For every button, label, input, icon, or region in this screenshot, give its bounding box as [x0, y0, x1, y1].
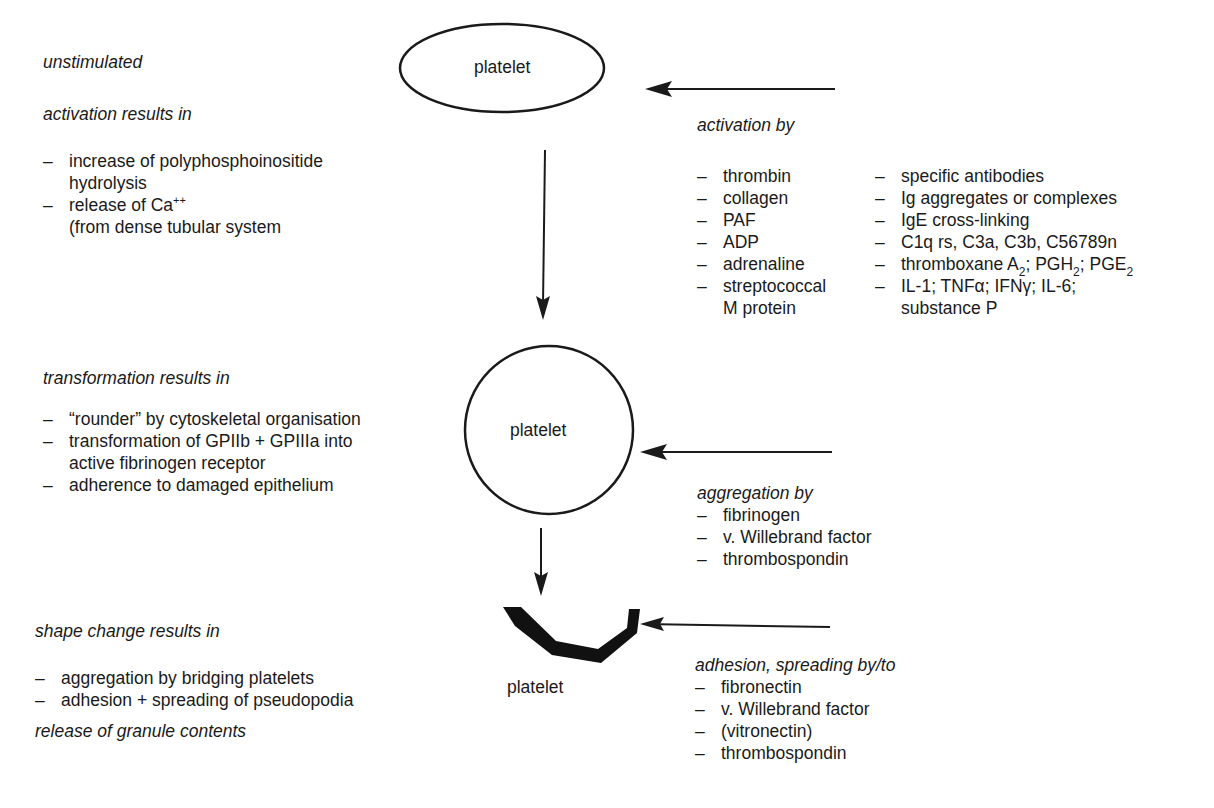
item-text: (vitronectin) [721, 720, 812, 742]
shape-change-results-list: –aggregation by bridging platelets –adhe… [35, 667, 353, 711]
dash: – [697, 231, 723, 253]
list-item: –PAF [697, 209, 826, 231]
list-item: –adhesion + spreading of pseudopodia [35, 689, 353, 711]
item-text: release of Ca++ [69, 194, 186, 216]
activation-by-list-col2: –specific antibodies –Ig aggregates or c… [875, 165, 1133, 319]
adhesion-arrow [644, 624, 830, 627]
list-item: –C1q rs, C3a, C3b, C56789n [875, 231, 1133, 253]
list-item: –increase of polyphosphoinositide hydrol… [43, 150, 323, 194]
list-item: –Ig aggregates or complexes [875, 187, 1133, 209]
dash: – [875, 165, 901, 187]
list-item: –IgE cross-linking [875, 209, 1133, 231]
list-item: –release of Ca++ (from dense tubular sys… [43, 194, 323, 238]
item-text: aggregation by bridging platelets [61, 667, 314, 689]
list-item: –adrenaline [697, 253, 826, 275]
item-text: streptococcal [723, 275, 826, 297]
item-text-continued: hydrolysis [43, 172, 323, 194]
dash: – [875, 209, 901, 231]
item-text-continued: (from dense tubular system [43, 216, 323, 238]
shape-change-results-heading: shape change results in [35, 620, 220, 642]
list-item: –IL-1; TNFα; IFNγ; IL-6; substance P [875, 275, 1133, 319]
item-text: v. Willebrand factor [723, 526, 871, 548]
item-text: Ig aggregates or complexes [901, 187, 1117, 209]
unstimulated-heading: unstimulated [43, 51, 142, 73]
item-text-continued: active fibrinogen receptor [43, 452, 361, 474]
list-item: –transformation of GPIIb + GPIIIa into a… [43, 430, 361, 474]
item-text-part: thromboxane A [901, 254, 1019, 274]
item-text: thromboxane A2; PGH2; PGE2 [901, 253, 1133, 275]
transformation-results-heading: transformation results in [43, 367, 230, 389]
dash: – [697, 504, 723, 526]
platelet-shape-changed-label: platelet [507, 677, 563, 698]
dash: – [43, 474, 69, 496]
dash: – [35, 689, 61, 711]
list-item: –ADP [697, 231, 826, 253]
dash: – [875, 275, 901, 297]
dash: – [35, 667, 61, 689]
dash: – [43, 430, 69, 452]
transformation-results-list: –“rounder” by cytoskeletal organisation … [43, 408, 361, 496]
aggregation-by-heading: aggregation by [697, 482, 871, 504]
list-item: –aggregation by bridging platelets [35, 667, 353, 689]
list-item: –fibronectin [695, 676, 895, 698]
subscript: 2 [1126, 265, 1133, 279]
dash: – [695, 720, 721, 742]
item-text: specific antibodies [901, 165, 1044, 187]
adhesion-by-block: adhesion, spreading by/to –fibronectin –… [695, 654, 895, 764]
dash: – [875, 187, 901, 209]
item-text: thrombin [723, 165, 791, 187]
adhesion-by-heading: adhesion, spreading by/to [695, 654, 895, 676]
item-text: ADP [723, 231, 759, 253]
dash: – [697, 253, 723, 275]
dash: – [695, 742, 721, 764]
item-text: PAF [723, 209, 756, 231]
item-text: adhesion + spreading of pseudopodia [61, 689, 353, 711]
platelet-transformed-label: platelet [510, 420, 566, 441]
list-item: –“rounder” by cytoskeletal organisation [43, 408, 361, 430]
item-text: v. Willebrand factor [721, 698, 869, 720]
dash: – [875, 231, 901, 253]
dash: – [875, 253, 901, 275]
list-item: –thrombospondin [697, 548, 871, 570]
platelet-shape-changed-shape [503, 607, 640, 663]
item-text: collagen [723, 187, 788, 209]
dash: – [697, 209, 723, 231]
activation-results-list: –increase of polyphosphoinositide hydrol… [43, 150, 323, 238]
dash: – [697, 187, 723, 209]
list-item: –specific antibodies [875, 165, 1133, 187]
dash: – [697, 548, 723, 570]
item-text-continued: substance P [875, 297, 1133, 319]
list-item: –v. Willebrand factor [697, 526, 871, 548]
list-item: –thrombin [697, 165, 826, 187]
item-text: thrombospondin [723, 548, 849, 570]
item-text: fibrinogen [723, 504, 800, 526]
dash: – [43, 150, 69, 172]
item-text: adherence to damaged epithelium [69, 474, 334, 496]
release-granule-contents-heading: release of granule contents [35, 720, 246, 742]
item-text: C1q rs, C3a, C3b, C56789n [901, 231, 1117, 253]
item-text-main: release of Ca [69, 195, 173, 215]
dash: – [695, 676, 721, 698]
list-item: –streptococcal M protein [697, 275, 826, 319]
superscript: ++ [173, 194, 186, 206]
platelet-unstimulated-label: platelet [474, 57, 530, 78]
dash: – [697, 275, 723, 297]
item-text: “rounder” by cytoskeletal organisation [69, 408, 361, 430]
activation-by-list-col1: –thrombin –collagen –PAF –ADP –adrenalin… [697, 165, 826, 319]
dash: – [697, 526, 723, 548]
list-item: –thrombospondin [695, 742, 895, 764]
dash: – [697, 165, 723, 187]
list-item: –fibrinogen [697, 504, 871, 526]
item-text: IL-1; TNFα; IFNγ; IL-6; [901, 275, 1076, 297]
item-text-part: ; PGE [1080, 254, 1127, 274]
list-item: –thromboxane A2; PGH2; PGE2 [875, 253, 1133, 275]
item-text: IgE cross-linking [901, 209, 1029, 231]
list-item: –collagen [697, 187, 826, 209]
item-text-part: ; PGH [1025, 254, 1073, 274]
activation-by-heading: activation by [697, 114, 794, 136]
item-text: thrombospondin [721, 742, 847, 764]
activation-results-heading: activation results in [43, 103, 192, 125]
item-text-continued: M protein [697, 297, 826, 319]
item-text: transformation of GPIIb + GPIIIa into [69, 430, 353, 452]
item-text: increase of polyphosphoinositide [69, 150, 323, 172]
